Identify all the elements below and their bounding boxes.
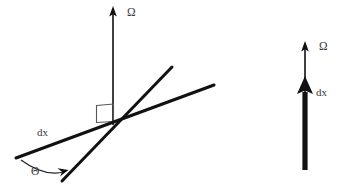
canvas-background: [0, 0, 343, 185]
dx-label-right: dx: [316, 86, 328, 98]
omega-label-right: Ω: [319, 40, 328, 52]
omega-label-left: Ω: [127, 6, 136, 18]
figure-root: Ω dx Θ Ω dx: [0, 0, 343, 185]
diagram-canvas: Ω dx Θ Ω dx: [0, 0, 343, 185]
dx-label-left: dx: [37, 126, 49, 138]
theta-label: Θ: [31, 165, 39, 177]
